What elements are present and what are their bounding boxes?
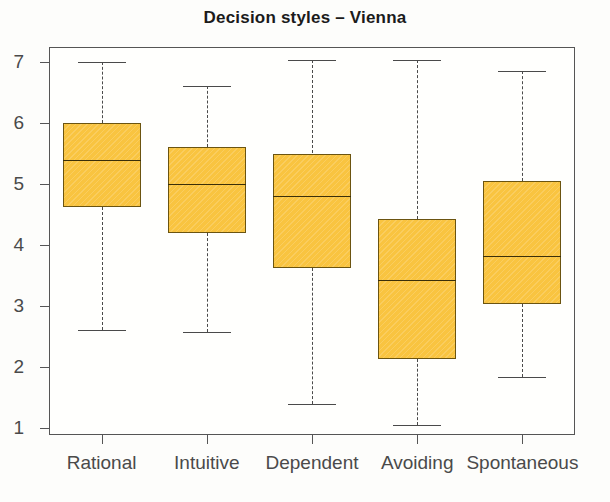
y-axis-tick-mark <box>40 428 49 429</box>
y-axis-tick-label: 3 <box>0 295 24 317</box>
x-axis-tick-mark <box>207 435 208 444</box>
x-axis-tick-mark <box>102 435 103 444</box>
upper-whisker-line <box>417 60 418 219</box>
lower-whisker-line <box>207 233 208 332</box>
median-line <box>168 184 246 185</box>
lower-whisker-cap <box>78 330 126 331</box>
lower-whisker-line <box>522 304 523 377</box>
upper-whisker-cap <box>183 86 231 87</box>
x-axis-tick-label-spontaneous: Spontaneous <box>466 452 578 474</box>
upper-whisker-cap <box>78 62 126 63</box>
x-axis-tick-label-avoiding: Avoiding <box>381 452 454 474</box>
median-line <box>378 280 456 281</box>
box-iqr-rect <box>63 123 141 207</box>
lower-whisker-cap <box>183 332 231 333</box>
upper-whisker-cap <box>393 60 441 61</box>
upper-whisker-line <box>102 62 103 123</box>
y-axis-tick-label: 5 <box>0 173 24 195</box>
y-axis-tick-label: 6 <box>0 112 24 134</box>
lower-whisker-cap <box>288 404 336 405</box>
x-axis-tick-mark <box>522 435 523 444</box>
chart-title: Decision styles – Vienna <box>0 8 610 28</box>
y-axis-tick-mark <box>40 245 49 246</box>
y-axis-tick-mark <box>40 62 49 63</box>
box-plot-chart: Decision styles – Vienna 1234567 Rationa… <box>0 0 610 502</box>
x-axis-tick-label-dependent: Dependent <box>266 452 359 474</box>
x-axis-tick-label-rational: Rational <box>67 452 137 474</box>
upper-whisker-cap <box>498 71 546 72</box>
y-axis-tick-mark <box>40 123 49 124</box>
upper-whisker-cap <box>288 60 336 61</box>
box-iqr-rect <box>273 154 351 269</box>
median-line <box>63 160 141 161</box>
x-axis-tick-label-intuitive: Intuitive <box>174 452 239 474</box>
upper-whisker-line <box>522 71 523 181</box>
lower-whisker-line <box>417 359 418 425</box>
y-axis-tick-label: 2 <box>0 356 24 378</box>
y-axis-tick-label: 1 <box>0 417 24 439</box>
median-line <box>273 196 351 197</box>
x-axis-tick-mark <box>312 435 313 444</box>
y-axis-tick-label: 4 <box>0 234 24 256</box>
y-axis-tick-mark <box>40 367 49 368</box>
y-axis-tick-mark <box>40 184 49 185</box>
x-axis-tick-mark <box>417 435 418 444</box>
lower-whisker-line <box>312 268 313 403</box>
lower-whisker-line <box>102 207 103 331</box>
box-iqr-rect <box>168 147 246 232</box>
upper-whisker-line <box>207 86 208 147</box>
upper-whisker-line <box>312 60 313 153</box>
lower-whisker-cap <box>498 377 546 378</box>
median-line <box>483 256 561 257</box>
y-axis-tick-mark <box>40 306 49 307</box>
box-iqr-rect <box>378 219 456 359</box>
y-axis-tick-label: 7 <box>0 51 24 73</box>
box-iqr-rect <box>483 181 561 304</box>
lower-whisker-cap <box>393 425 441 426</box>
